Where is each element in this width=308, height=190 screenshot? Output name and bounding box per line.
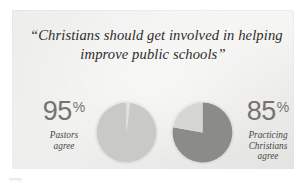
percent-symbol-pastors: % bbox=[73, 99, 85, 115]
stat-label-pastors-line-2: agree bbox=[26, 141, 102, 152]
stat-label-christians-line-1: Practicing bbox=[230, 130, 306, 141]
pie-chart-pastors bbox=[96, 102, 157, 163]
infographic-card: “Christians should get involved in helpi… bbox=[12, 10, 294, 169]
stat-block-pastors: 95% Pastors agree bbox=[26, 98, 102, 151]
pie-slice-christians-remainder bbox=[173, 103, 202, 133]
chart-title-line-1: “Christians should get involved in helpi… bbox=[30, 26, 276, 45]
pie-chart-christians-svg bbox=[172, 102, 233, 163]
pie-chart-christians bbox=[172, 102, 233, 163]
stat-value-pastors: 95 bbox=[43, 98, 72, 125]
stat-label-pastors: Pastors agree bbox=[26, 130, 102, 151]
chart-title-line-2: improve public schools” bbox=[30, 45, 276, 64]
percent-symbol-christians: % bbox=[277, 99, 289, 115]
stat-label-christians-line-3: agree bbox=[230, 151, 306, 162]
chart-title: “Christians should get involved in helpi… bbox=[30, 26, 276, 64]
page-edge-smudge bbox=[9, 178, 22, 182]
pie-chart-pastors-svg bbox=[96, 102, 157, 163]
stat-label-christians-line-2: Christians bbox=[230, 141, 306, 152]
stat-label-christians: Practicing Christians agree bbox=[230, 130, 306, 162]
stat-value-christians: 85 bbox=[247, 98, 276, 125]
stat-block-christians: 85% Practicing Christians agree bbox=[230, 98, 306, 162]
stat-value-row-pastors: 95% bbox=[26, 98, 102, 125]
stat-label-pastors-line-1: Pastors bbox=[26, 130, 102, 141]
stat-value-row-christians: 85% bbox=[230, 98, 306, 125]
